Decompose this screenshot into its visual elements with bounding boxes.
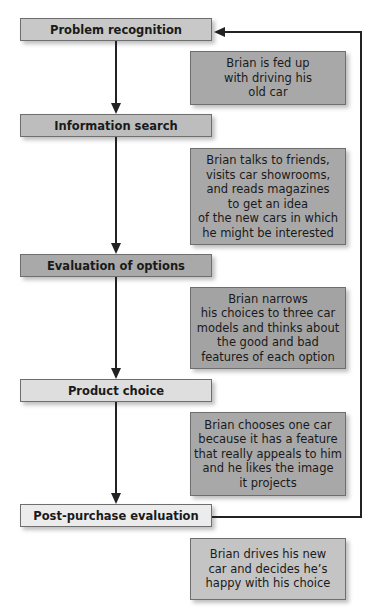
- description-text: Brian narrows his choices to three car m…: [197, 292, 340, 365]
- description-text: Brian is fed up with driving his old car: [224, 56, 312, 100]
- connector-line: [115, 41, 117, 104]
- step-label: Post-purchase evaluation: [33, 509, 198, 523]
- step-product-choice: Product choice: [20, 379, 212, 402]
- connector-line: [115, 402, 117, 494]
- description-product-choice: Brian chooses one car because it has a f…: [190, 412, 346, 496]
- arrow-left-icon: [214, 27, 225, 37]
- arrow-down-icon: [111, 243, 121, 254]
- step-label: Product choice: [68, 384, 164, 398]
- arrow-down-icon: [111, 493, 121, 504]
- feedback-line-top: [224, 31, 361, 33]
- connector-line: [115, 137, 117, 244]
- connector-line: [115, 277, 117, 369]
- arrow-down-icon: [111, 368, 121, 379]
- description-evaluation-of-options: Brian narrows his choices to three car m…: [190, 287, 346, 369]
- step-label: Evaluation of options: [47, 259, 185, 273]
- feedback-line-right: [360, 31, 362, 518]
- description-text: Brian chooses one car because it has a f…: [194, 418, 342, 491]
- step-information-search: Information search: [20, 114, 212, 137]
- arrow-down-icon: [111, 103, 121, 114]
- step-post-purchase-evaluation: Post-purchase evaluation: [20, 504, 212, 527]
- description-problem-recognition: Brian is fed up with driving his old car: [190, 51, 346, 105]
- description-text: Brian drives his new car and decides he’…: [206, 547, 331, 591]
- description-text: Brian talks to friends, visits car showr…: [198, 153, 338, 240]
- step-problem-recognition: Problem recognition: [20, 18, 212, 41]
- step-label: Problem recognition: [50, 23, 182, 37]
- feedback-line-bottom: [212, 516, 361, 518]
- description-information-search: Brian talks to friends, visits car showr…: [190, 148, 346, 245]
- description-post-purchase: Brian drives his new car and decides he’…: [190, 538, 346, 600]
- step-label: Information search: [54, 119, 177, 133]
- step-evaluation-of-options: Evaluation of options: [20, 254, 212, 277]
